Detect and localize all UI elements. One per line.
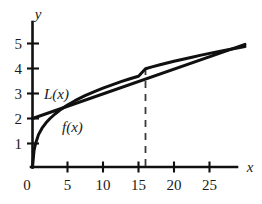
x-tick-label-10: 10 <box>96 177 111 193</box>
x-axis-label: x <box>246 159 254 175</box>
curve-label-f: f(x) <box>62 119 83 136</box>
plot-canvas: 5 4 3 2 1 0 5 10 15 20 25 y x L(x) f(x) <box>0 0 262 204</box>
curve-f <box>33 47 246 167</box>
y-tick-label-1: 1 <box>15 136 23 152</box>
y-tick-label-3: 3 <box>15 86 23 102</box>
curve-label-L: L(x) <box>43 86 69 103</box>
x-tick-label-25: 25 <box>202 177 217 193</box>
y-tick-label-5: 5 <box>15 36 23 52</box>
y-axis-label: y <box>33 6 42 22</box>
x-tick-label-20: 20 <box>167 177 182 193</box>
y-tick-label-2: 2 <box>15 111 23 127</box>
x-tick-label-15: 15 <box>131 177 146 193</box>
function-graph-figure: 5 4 3 2 1 0 5 10 15 20 25 y x L(x) f(x) <box>0 0 262 204</box>
x-tick-label-0: 0 <box>23 177 31 193</box>
x-tick-label-5: 5 <box>64 177 72 193</box>
y-tick-label-4: 4 <box>15 61 23 77</box>
